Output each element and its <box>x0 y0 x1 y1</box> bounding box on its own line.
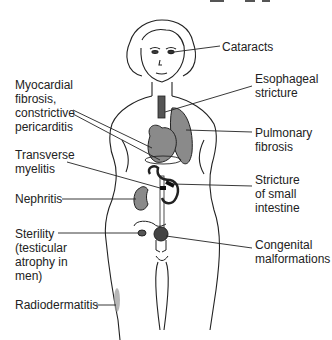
label-pulmonary-fibrosis: Pulmonary fibrosis <box>255 126 312 154</box>
reproductive-organs <box>134 221 168 260</box>
head <box>127 20 196 96</box>
label-radiodermatitis: Radiodermatitis <box>15 298 98 312</box>
kidney-organ <box>134 187 148 210</box>
leader-lines <box>58 46 252 305</box>
label-congenital-malformations: Congenital malformations <box>255 238 330 266</box>
label-cataracts: Cataracts <box>222 40 273 54</box>
spinal-segment <box>160 186 166 190</box>
label-stricture-small-intestine: Stricture of small intestine <box>255 173 300 215</box>
label-nephritis: Nephritis <box>15 192 62 206</box>
label-myocardial-fibrosis: Myocardial fibrosis, constrictive perica… <box>15 78 75 134</box>
label-sterility: Sterility (testicular atrophy in men) <box>15 227 68 283</box>
label-esophageal-stricture: Esophageal stricture <box>255 72 318 100</box>
top-text-fragment <box>210 0 270 2</box>
skin-patch <box>114 288 120 312</box>
label-transverse-myelitis: Transverse myelitis <box>15 148 75 176</box>
esophagus <box>158 96 165 236</box>
